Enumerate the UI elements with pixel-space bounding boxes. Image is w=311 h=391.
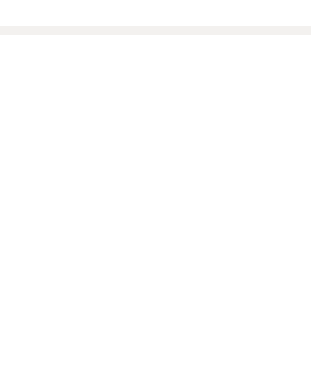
scan-artifact-band <box>0 26 311 35</box>
plot-canvas <box>0 0 311 391</box>
figure-container <box>0 0 311 391</box>
